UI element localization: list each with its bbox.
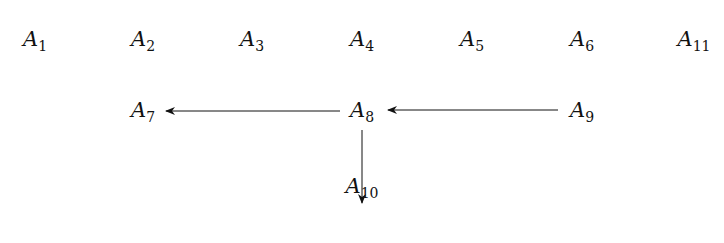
node-label: A	[460, 27, 475, 51]
node-a3: A3	[240, 27, 264, 54]
node-label: A	[23, 27, 38, 51]
node-a8: A8	[350, 98, 374, 125]
node-label: A	[678, 27, 693, 51]
node-subscript: 8	[365, 109, 374, 125]
node-subscript: 10	[361, 185, 379, 201]
node-label: A	[350, 27, 365, 51]
node-a2: A2	[131, 27, 155, 54]
node-label: A	[240, 27, 255, 51]
node-a1: A1	[23, 27, 47, 54]
node-subscript: 1	[38, 38, 47, 54]
node-label: A	[131, 27, 146, 51]
node-subscript: 7	[146, 109, 155, 125]
node-a4: A4	[350, 27, 374, 54]
node-a7: A7	[131, 98, 155, 125]
node-a6: A6	[570, 27, 594, 54]
node-subscript: 3	[255, 38, 264, 54]
node-label: A	[570, 27, 585, 51]
node-a9: A9	[570, 98, 594, 125]
node-label: A	[131, 98, 146, 122]
node-subscript: 6	[585, 38, 594, 54]
node-label: A	[350, 98, 365, 122]
node-subscript: 5	[475, 38, 484, 54]
node-label: A	[570, 98, 585, 122]
node-subscript: 9	[585, 109, 594, 125]
node-a11: A11	[678, 27, 711, 54]
node-a10: A10	[346, 174, 379, 201]
node-label: A	[346, 174, 361, 198]
node-a5: A5	[460, 27, 484, 54]
node-subscript: 11	[693, 38, 711, 54]
node-subscript: 4	[365, 38, 374, 54]
node-subscript: 2	[146, 38, 155, 54]
